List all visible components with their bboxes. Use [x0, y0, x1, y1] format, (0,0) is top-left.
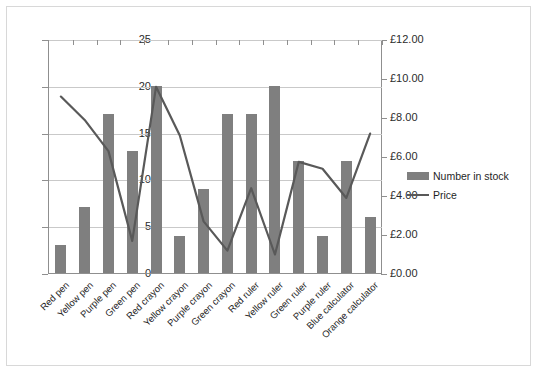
right-axis-tick-label: £6.00 [390, 151, 446, 162]
legend-label-number-in-stock: Number in stock [433, 170, 509, 182]
right-axis-tick-label: £12.00 [390, 34, 446, 45]
x-axis-tick [168, 40, 169, 45]
x-axis-tick [144, 40, 145, 45]
line-swatch-icon [407, 194, 429, 196]
right-axis-tick-label: £10.00 [390, 73, 446, 84]
x-axis-tick [97, 40, 98, 45]
left-axis-tick-mark [42, 274, 48, 275]
x-axis-tick [382, 40, 383, 45]
x-axis-tick [216, 40, 217, 45]
right-axis-tick-label: £2.00 [390, 229, 446, 240]
x-axis-tick [239, 40, 240, 45]
line-series-price [49, 40, 382, 274]
x-axis-tick [263, 40, 264, 45]
legend-item-price: Price [407, 189, 509, 201]
x-axis-tick [192, 40, 193, 45]
legend-item-number-in-stock: Number in stock [407, 170, 509, 182]
legend-label-price: Price [433, 189, 457, 201]
x-axis-tick [120, 40, 121, 45]
x-axis-tick [287, 40, 288, 45]
chart-legend: Number in stock Price [407, 170, 509, 208]
price-polyline [61, 87, 370, 255]
right-axis-tick-label: £8.00 [390, 112, 446, 123]
x-axis-tick [358, 40, 359, 45]
bar-swatch-icon [407, 172, 429, 180]
x-axis-tick [73, 40, 74, 45]
chart-container: 0510152025 £0.00£2.00£4.00£6.00£8.00£10.… [6, 6, 531, 366]
x-axis-tick [311, 40, 312, 45]
plot-area [48, 40, 381, 274]
right-axis-tick-label: £0.00 [390, 268, 446, 279]
x-axis-tick [334, 40, 335, 45]
